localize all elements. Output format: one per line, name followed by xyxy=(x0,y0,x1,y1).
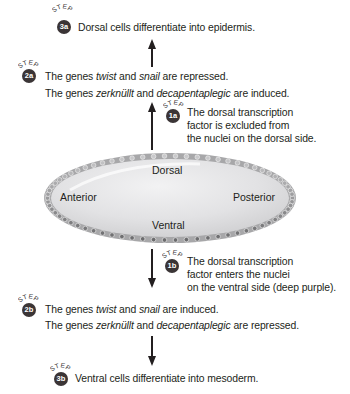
gene-snail: snail xyxy=(139,71,160,82)
step-2b-line-1: The genes twist and snail are induced. xyxy=(45,302,219,317)
step-1a-line-1: The dorsal transcription xyxy=(187,106,293,119)
gene-decapentaplegic: decapentaplegic xyxy=(156,320,230,331)
step-1b-line-3: on the ventral side (deep purple). xyxy=(187,281,336,294)
arrow-shaft xyxy=(151,47,152,67)
gene-decapentaplegic: decapentaplegic xyxy=(156,88,230,99)
step-1a-line-3: the nuclei on the dorsal side. xyxy=(187,132,316,145)
label-dorsal: Dorsal xyxy=(152,164,182,176)
step-3b-text: Ventral cells differentiate into mesoder… xyxy=(75,371,258,386)
arrow-shaft xyxy=(151,249,152,279)
embryo-diagram: Dorsal Anterior Posterior Ventral xyxy=(40,150,300,246)
arrow-shaft xyxy=(151,336,152,358)
label-ventral: Ventral xyxy=(152,219,185,231)
gene-snail: snail xyxy=(139,304,160,315)
step-1a-line-2: factor is excluded from xyxy=(187,119,289,132)
arrow-down-icon xyxy=(148,278,156,288)
step-badge-3b: 3b xyxy=(54,372,68,386)
gene-twist: twist xyxy=(96,71,116,82)
step-badge-1b: 1b xyxy=(165,259,179,273)
step-1b-line-2: factor enters the nuclei xyxy=(187,268,290,281)
label-anterior: Anterior xyxy=(60,191,97,203)
step-2b-line-2: The genes zerknüllt and decapentaplegic … xyxy=(45,318,299,333)
step-badge-3a: 3a xyxy=(57,20,71,34)
arrow-down-icon xyxy=(148,356,156,366)
step-3a-text: Dorsal cells differentiate into epidermi… xyxy=(78,20,255,35)
step-2a-line-2: The genes zerknüllt and decapentaplegic … xyxy=(45,86,289,101)
gene-zerknullt: zerknüllt xyxy=(96,88,134,99)
step-badge-1a: 1a xyxy=(166,109,180,123)
step-1b-line-1: The dorsal transcription xyxy=(187,255,293,268)
step-label: STEP xyxy=(52,4,74,14)
step-badge-2b: 2b xyxy=(22,303,36,317)
gene-twist: twist xyxy=(96,304,116,315)
arrow-shaft xyxy=(151,110,152,150)
step-badge-2a: 2a xyxy=(22,69,36,83)
gene-zerknullt: zerknüllt xyxy=(96,320,134,331)
label-posterior: Posterior xyxy=(233,191,275,203)
step-2a-line-1: The genes twist and snail are repressed. xyxy=(45,69,228,84)
svg-text:STEP: STEP xyxy=(52,4,74,14)
